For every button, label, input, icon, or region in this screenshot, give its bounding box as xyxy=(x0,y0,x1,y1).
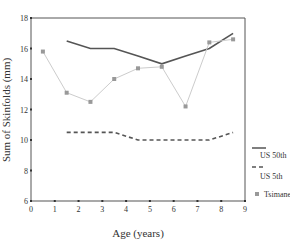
x-axis-label: Age (years) xyxy=(112,227,164,240)
y-tick-mark xyxy=(30,78,32,80)
y-tick-mark xyxy=(30,48,32,50)
x-tick-label: 6 xyxy=(172,205,176,214)
x-tick-label: 8 xyxy=(219,205,223,214)
tsimane-marker xyxy=(231,37,235,41)
y-axis-label: Sum of Skinfolds (mm) xyxy=(0,58,13,163)
y-tick-mark xyxy=(30,139,32,141)
tsimane-marker xyxy=(65,91,69,95)
y-tick-mark xyxy=(30,109,32,111)
tsimane-marker xyxy=(136,66,140,70)
x-tick-label: 9 xyxy=(243,205,247,214)
y-tick-label: 18 xyxy=(20,14,28,23)
us-50th-line xyxy=(67,33,233,64)
y-tick-mark xyxy=(30,17,32,19)
x-tick-label: 5 xyxy=(148,205,152,214)
legend: US 50th US 5th Tsimane xyxy=(252,148,290,199)
skinfolds-chart: 0123456789681012141618 Age (years) Sum o… xyxy=(0,0,290,244)
x-tick-label: 7 xyxy=(195,205,199,214)
x-tick-mark xyxy=(196,200,198,202)
x-tick-label: 4 xyxy=(124,205,128,214)
x-tick-mark xyxy=(220,200,222,202)
tsimane-marker xyxy=(160,65,164,69)
y-tick-label: 12 xyxy=(20,106,28,115)
x-tick-mark xyxy=(78,200,80,202)
y-tick-label: 16 xyxy=(20,45,28,54)
y-tick-label: 8 xyxy=(24,167,28,176)
legend-tsimane-label: Tsimane xyxy=(264,190,290,199)
legend-us50-label: US 50th xyxy=(260,151,286,160)
x-tick-label: 3 xyxy=(100,205,104,214)
y-tick-mark xyxy=(30,200,32,202)
x-tick-label: 1 xyxy=(53,205,57,214)
tsimane-marker xyxy=(88,100,92,104)
x-tick-mark xyxy=(101,200,103,202)
legend-us5-label: US 5th xyxy=(260,172,282,181)
x-tick-mark xyxy=(149,200,151,202)
axes: 0123456789681012141618 xyxy=(20,14,247,214)
tsimane-marker xyxy=(41,50,45,54)
tsimane-marker xyxy=(207,40,211,44)
y-tick-label: 6 xyxy=(24,197,28,206)
x-tick-label: 2 xyxy=(77,205,81,214)
x-tick-label: 0 xyxy=(29,205,33,214)
x-tick-mark xyxy=(125,200,127,202)
series-lines xyxy=(41,33,235,140)
y-tick-label: 10 xyxy=(20,136,28,145)
x-tick-mark xyxy=(54,200,56,202)
tsimane-marker xyxy=(112,77,116,81)
us-5th-line xyxy=(67,132,233,140)
x-tick-mark xyxy=(244,200,246,202)
legend-tsimane-marker xyxy=(255,192,259,196)
y-tick-label: 14 xyxy=(20,75,28,84)
x-tick-mark xyxy=(173,200,175,202)
y-tick-mark xyxy=(30,170,32,172)
tsimane-marker xyxy=(184,104,188,108)
